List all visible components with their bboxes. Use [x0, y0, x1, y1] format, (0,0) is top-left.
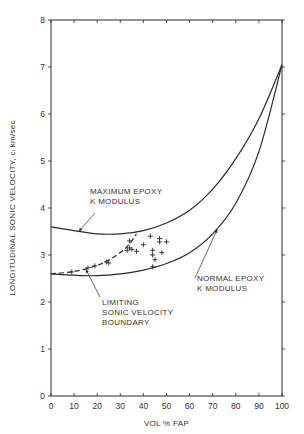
x-tick-label: 30: [116, 401, 126, 411]
y-axis-ticks: 012345678: [40, 15, 285, 401]
x-tick-label: 100: [275, 401, 289, 411]
leader-line: [86, 269, 100, 297]
maximum-epoxy-k-modulus-curve: [51, 65, 282, 235]
annotation-normal-epoxy: NORMAL EPOXYK MODULUS: [197, 274, 265, 293]
data-point-plus-marker: [164, 239, 169, 244]
x-tick-label: 0: [49, 401, 54, 411]
annotation-limiting-boundary: LIMITINGSONIC VELOCITYBOUNDARY: [102, 298, 174, 327]
x-axis-title: VOL % FAP: [144, 419, 189, 428]
data-point-plus-marker: [92, 263, 97, 268]
data-point-plus-marker: [159, 250, 164, 255]
y-axis-title: LONGITUDINAL SONIC VELOCITY, cₗ km/sec: [8, 120, 17, 296]
x-tick-label: 90: [254, 401, 264, 411]
leader-line: [79, 213, 95, 232]
annotations: MAXIMUM EPOXYK MODULUSNORMAL EPOXYK MODU…: [79, 187, 265, 327]
y-tick-label: 5: [40, 156, 45, 166]
x-axis-ticks: 0102030405060708090100: [49, 20, 290, 411]
y-tick-label: 7: [40, 62, 45, 72]
x-tick-label: 60: [185, 401, 195, 411]
data-point-plus-marker: [69, 269, 74, 274]
data-markers: [69, 234, 169, 275]
x-tick-label: 20: [92, 401, 102, 411]
leader-line: [195, 229, 217, 278]
data-point-plus-marker: [134, 249, 139, 254]
data-point-plus-marker: [150, 253, 155, 258]
limiting-sonic-velocity-boundary-curve: [51, 234, 136, 274]
y-tick-label: 6: [40, 109, 45, 119]
y-tick-label: 4: [40, 203, 45, 213]
x-tick-label: 80: [231, 401, 241, 411]
data-point-plus-marker: [127, 238, 132, 243]
y-tick-label: 0: [40, 391, 45, 401]
y-tick-label: 8: [40, 15, 45, 25]
data-point-plus-marker: [150, 248, 155, 253]
plot-frame: [51, 20, 282, 396]
x-tick-label: 50: [162, 401, 172, 411]
sonic-velocity-chart: 0102030405060708090100 012345678 MAXIMUM…: [0, 0, 304, 434]
x-tick-label: 70: [208, 401, 218, 411]
y-tick-label: 1: [40, 344, 45, 354]
y-tick-label: 3: [40, 250, 45, 260]
annotation-maximum-epoxy: MAXIMUM EPOXYK MODULUS: [90, 187, 163, 206]
data-point-plus-marker: [141, 242, 146, 247]
data-point-plus-marker: [152, 257, 157, 262]
data-point-plus-marker: [148, 234, 153, 239]
x-tick-label: 40: [139, 401, 149, 411]
x-tick-label: 10: [69, 401, 79, 411]
plot-axes: [51, 20, 282, 396]
data-point-plus-marker: [157, 239, 162, 244]
y-tick-label: 2: [40, 297, 45, 307]
